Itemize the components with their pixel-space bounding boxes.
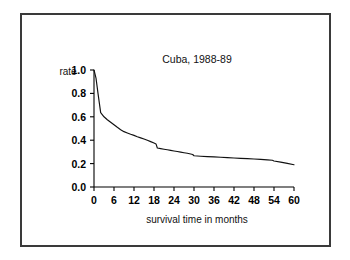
x-tick-label: 60	[288, 194, 300, 206]
x-tick-label: 48	[248, 194, 260, 206]
x-tick-label: 6	[111, 194, 117, 206]
y-tick-label: 0.8	[71, 87, 86, 99]
x-tick-label: 42	[228, 194, 240, 206]
x-tick-label: 12	[128, 194, 140, 206]
x-tick-label: 54	[268, 194, 280, 206]
survival-chart-svg: Cuba, 1988-89 rate survival time in mont…	[22, 15, 333, 249]
y-tick-label: 0.0	[71, 181, 86, 193]
x-tick-label: 0	[91, 194, 97, 206]
x-tick-label: 36	[208, 194, 220, 206]
y-tick-group: 0.00.20.40.60.81.0	[71, 64, 94, 193]
x-tick-label: 18	[148, 194, 160, 206]
x-axis-label: survival time in months	[146, 214, 248, 225]
x-tick-label: 30	[188, 194, 200, 206]
x-tick-label: 24	[168, 194, 180, 206]
y-tick-label: 0.6	[71, 111, 86, 123]
y-tick-label: 1.0	[71, 64, 86, 76]
figure-frame: Cuba, 1988-89 rate survival time in mont…	[20, 13, 331, 247]
x-tick-group: 06121824303642485460	[91, 187, 300, 206]
chart-plot-area: Cuba, 1988-89 rate survival time in mont…	[22, 15, 333, 249]
chart-title: Cuba, 1988-89	[162, 53, 232, 65]
survival-rate-line	[94, 70, 294, 165]
y-tick-label: 0.4	[71, 134, 86, 146]
y-tick-label: 0.2	[71, 158, 86, 170]
